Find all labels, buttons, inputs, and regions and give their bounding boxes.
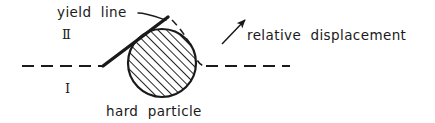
region-one-label: Ⅰ [65, 81, 70, 96]
relative-displacement-arrow [222, 20, 245, 44]
region-two-label: Ⅱ [62, 27, 71, 42]
figure-canvas: yield line Ⅱ Ⅰ hard particle relative di… [0, 0, 435, 123]
relative-displacement-label: relative displacement [247, 27, 406, 43]
yield-line-label: yield line [57, 4, 127, 20]
yield-line-leader [138, 13, 166, 20]
hard-particle-label: hard particle [106, 103, 202, 119]
yield-line-hard-particle-diagram: yield line Ⅱ Ⅰ hard particle relative di… [0, 0, 435, 123]
